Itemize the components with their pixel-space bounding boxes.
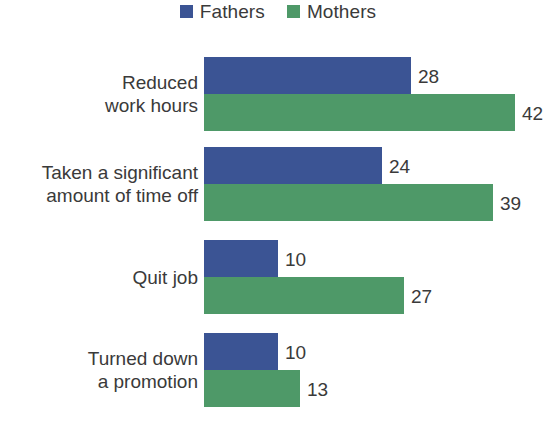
- bar-group: Taken a significant amount of time off 2…: [0, 147, 556, 221]
- bar-row-fathers: 24: [204, 147, 493, 184]
- bar-row-mothers: 13: [204, 370, 300, 407]
- bar-fathers: [204, 57, 411, 94]
- bar-value-label: 28: [411, 66, 439, 85]
- bar-mothers: [204, 370, 300, 407]
- bar-value-label: 42: [515, 103, 543, 122]
- bar-row-fathers: 10: [204, 240, 404, 277]
- bar-value-label: 13: [300, 379, 328, 398]
- bar-fathers: [204, 333, 278, 370]
- bar-value-label: 24: [382, 156, 410, 175]
- bar-pair: 24 39: [204, 147, 493, 221]
- bar-mothers: [204, 94, 515, 131]
- bar-value-label: 10: [278, 249, 306, 268]
- bar-pair: 28 42: [204, 57, 515, 131]
- category-label: Reduced work hours: [8, 57, 198, 131]
- grouped-bar-chart: Fathers Mothers Reduced work hours 28 42: [0, 0, 556, 425]
- bar-group: Reduced work hours 28 42: [0, 57, 556, 131]
- bar-row-mothers: 39: [204, 184, 493, 221]
- bar-pair: 10 13: [204, 333, 300, 407]
- bar-mothers: [204, 277, 404, 314]
- bar-fathers: [204, 147, 382, 184]
- category-label: Turned down a promotion: [8, 333, 198, 407]
- bar-row-mothers: 27: [204, 277, 404, 314]
- bar-mothers: [204, 184, 493, 221]
- plot-area: Reduced work hours 28 42 Taken a signifi…: [0, 0, 556, 425]
- bar-row-fathers: 10: [204, 333, 300, 370]
- bar-value-label: 10: [278, 342, 306, 361]
- bar-fathers: [204, 240, 278, 277]
- bar-value-label: 39: [493, 193, 521, 212]
- bar-value-label: 27: [404, 286, 432, 305]
- bar-row-fathers: 28: [204, 57, 515, 94]
- bar-pair: 10 27: [204, 240, 404, 314]
- category-label: Taken a significant amount of time off: [8, 147, 198, 221]
- bar-group: Turned down a promotion 10 13: [0, 333, 556, 407]
- bar-row-mothers: 42: [204, 94, 515, 131]
- category-label: Quit job: [8, 240, 198, 314]
- bar-group: Quit job 10 27: [0, 240, 556, 314]
